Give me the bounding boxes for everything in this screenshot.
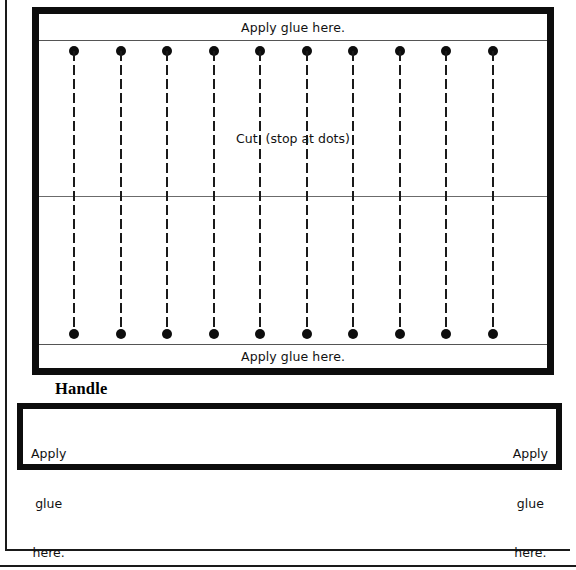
- pleat-stop-dot-bottom: [441, 329, 451, 339]
- pleat-stop-dot-bottom: [302, 329, 312, 339]
- pleat-stop-dot-bottom: [162, 329, 172, 339]
- handle-caption: Handle: [55, 379, 108, 399]
- top-glue-strip: Apply glue here.: [39, 14, 547, 41]
- pleat-cut-line: [68, 41, 80, 344]
- pleat-dashed-cut: [120, 51, 122, 334]
- pleat-dashed-cut: [73, 51, 75, 334]
- pleat-stop-dot-bottom: [488, 329, 498, 339]
- pleat-cut-line: [254, 41, 266, 344]
- pleat-field: Cut. (stop at dots): [39, 41, 547, 344]
- pleat-dashed-cut: [445, 51, 447, 334]
- handle-left-glue-line-3: here.: [31, 545, 66, 562]
- pleat-cut-line: [487, 41, 499, 344]
- handle-left-glue-label: Apply glue here.: [31, 413, 66, 570]
- pleat-stop-dot-bottom: [69, 329, 79, 339]
- pleat-dashed-cut: [352, 51, 354, 334]
- handle-right-glue-line-1: Apply: [513, 446, 548, 463]
- handle-left-glue-line-2: glue: [31, 496, 66, 513]
- pleat-dashed-cut: [492, 51, 494, 334]
- fan-craft-template-page: Apply glue here. Cut. (stop at dots) App…: [0, 0, 576, 570]
- pleat-dashed-cut: [166, 51, 168, 334]
- pleat-cut-line: [347, 41, 359, 344]
- handle-right-glue-line-3: here.: [513, 545, 548, 562]
- pleat-cut-line: [440, 41, 452, 344]
- handle-right-glue-line-2: glue: [513, 496, 548, 513]
- handle-left-glue-line-1: Apply: [31, 446, 66, 463]
- cut-instruction-text: Cut. (stop at dots): [230, 131, 356, 146]
- bottom-glue-strip: Apply glue here.: [39, 344, 547, 368]
- pleat-cut-line: [394, 41, 406, 344]
- pleat-dashed-cut: [399, 51, 401, 334]
- top-glue-label: Apply glue here.: [241, 20, 345, 35]
- pleat-cut-line: [161, 41, 173, 344]
- fan-body-box: Apply glue here. Cut. (stop at dots) App…: [32, 7, 554, 375]
- pleat-stop-dot-bottom: [348, 329, 358, 339]
- page-bottom-rule: [0, 565, 576, 567]
- pleat-cut-line: [301, 41, 313, 344]
- pleat-stop-dot-bottom: [116, 329, 126, 339]
- pleat-cut-line: [115, 41, 127, 344]
- pleat-dashed-cut: [259, 51, 261, 334]
- pleat-dashed-cut: [306, 51, 308, 334]
- pleat-cut-line: [208, 41, 220, 344]
- pleat-dashed-cut: [213, 51, 215, 334]
- bottom-glue-label: Apply glue here.: [241, 349, 345, 364]
- pleat-stop-dot-bottom: [395, 329, 405, 339]
- pleat-stop-dot-bottom: [255, 329, 265, 339]
- handle-right-glue-label: Apply glue here.: [513, 413, 548, 570]
- pleat-stop-dot-bottom: [209, 329, 219, 339]
- handle-strip-box: Apply glue here. Apply glue here.: [17, 403, 562, 470]
